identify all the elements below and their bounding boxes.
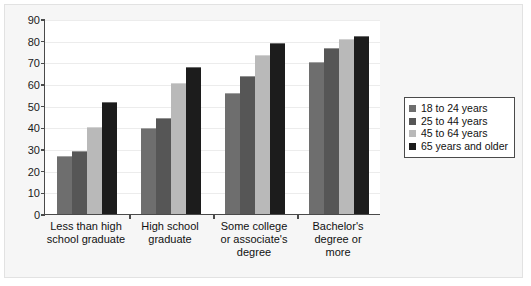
x-axis-tick-mark <box>129 214 131 219</box>
y-axis-tick-label: 50 <box>2 101 40 112</box>
bar <box>57 156 72 215</box>
y-axis-tick-label: 0 <box>2 210 40 221</box>
x-axis-category-label: High school graduate <box>128 220 212 246</box>
bar <box>339 39 354 215</box>
bar <box>324 48 339 214</box>
chart-legend: 18 to 24 years25 to 44 years45 to 64 yea… <box>404 97 515 158</box>
legend-item: 25 to 44 years <box>409 115 508 127</box>
y-axis-tick-label: 90 <box>2 15 40 26</box>
bar <box>240 76 255 214</box>
bar <box>72 151 87 214</box>
legend-swatch-icon <box>409 143 416 150</box>
y-axis-tick-label: 30 <box>2 145 40 156</box>
x-axis-category-label: Some college or associate's degree <box>212 220 296 259</box>
bar-group <box>213 20 297 214</box>
legend-label: 18 to 24 years <box>421 103 488 114</box>
x-axis-category-label: Less than high school graduate <box>44 220 128 246</box>
bar-group <box>297 20 381 214</box>
x-axis-tick-mark <box>213 214 215 219</box>
bar-group <box>129 20 213 214</box>
legend-item: 45 to 64 years <box>409 128 508 140</box>
legend-item: 18 to 24 years <box>409 103 508 115</box>
bar <box>270 43 285 214</box>
legend-swatch-icon <box>409 118 416 125</box>
bar <box>186 67 201 214</box>
legend-label: 25 to 44 years <box>421 116 488 127</box>
y-axis-tick-mark <box>41 214 45 216</box>
legend-swatch-icon <box>409 105 416 112</box>
bar <box>102 102 117 214</box>
legend-label: 45 to 64 years <box>421 128 488 139</box>
y-axis-tick-label: 60 <box>2 80 40 91</box>
bar <box>309 62 324 214</box>
y-axis-tick-label: 40 <box>2 123 40 134</box>
y-axis-tick-label: 70 <box>2 58 40 69</box>
bar <box>87 127 102 214</box>
bar <box>156 118 171 214</box>
bar <box>141 128 156 214</box>
y-axis-tick-label: 10 <box>2 188 40 199</box>
bar-group <box>45 20 129 214</box>
y-axis-tick-label: 80 <box>2 36 40 47</box>
x-axis-category-label: Bachelor's degree or more <box>296 220 380 259</box>
y-axis-tick-label: 20 <box>2 166 40 177</box>
chart-figure: 0102030405060708090 18 to 24 years25 to … <box>0 0 531 286</box>
bar <box>171 83 186 214</box>
legend-swatch-icon <box>409 130 416 137</box>
legend-label: 65 years and older <box>421 141 508 152</box>
bar <box>255 55 270 214</box>
bar <box>225 93 240 214</box>
bar <box>354 36 369 214</box>
legend-item: 65 years and older <box>409 140 508 152</box>
plot-area <box>44 20 380 215</box>
x-axis-tick-mark <box>297 214 299 219</box>
y-axis: 0102030405060708090 <box>0 20 40 215</box>
